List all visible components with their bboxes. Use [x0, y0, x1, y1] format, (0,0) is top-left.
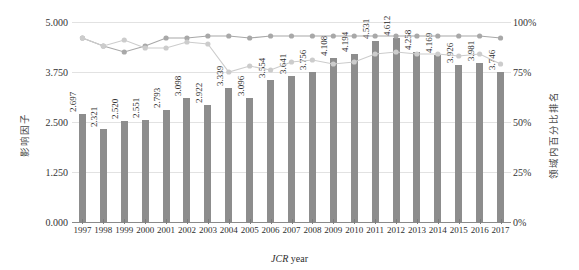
x-axis-tick-mark: [124, 219, 125, 224]
line-marker: [414, 33, 419, 38]
x-axis-tick-mark: [333, 219, 334, 224]
line-marker: [122, 37, 127, 42]
y-axis-left-tick-label: 3.750: [46, 67, 69, 78]
line-marker: [143, 45, 148, 50]
line-marker: [352, 33, 357, 38]
line-series-overlay: [72, 22, 511, 222]
x-axis-tick-label: 2007: [281, 224, 302, 240]
x-axis-tick-label: 1999: [114, 224, 135, 240]
y-axis-left-tick-label: 0.000: [46, 217, 69, 228]
x-axis-title-prefix: JCR: [271, 253, 288, 264]
line-marker: [289, 33, 294, 38]
x-axis-tick-label: 2011: [365, 224, 386, 240]
line-marker: [414, 51, 419, 56]
x-axis-tick-label: 2006: [260, 224, 281, 240]
x-axis-tick-label: 2003: [197, 224, 218, 240]
line-marker: [331, 61, 336, 66]
x-axis-tick-mark: [82, 219, 83, 224]
x-axis-tick-label: 2014: [427, 224, 448, 240]
line-marker: [101, 43, 106, 48]
x-axis-title-suffix: year: [291, 253, 308, 264]
y-axis-left-ticks: 0.0001.2502.5003.7505.000: [24, 0, 68, 270]
y-axis-left-tick-label: 1.250: [46, 167, 69, 178]
x-axis-tick-mark: [417, 219, 418, 224]
line-marker: [393, 33, 398, 38]
x-axis-tick-mark: [459, 219, 460, 224]
y-axis-right-ticks: 0%25%50%75%100%: [513, 0, 553, 270]
x-axis-tick-label: 1997: [72, 224, 93, 240]
x-axis-tick-label: 2004: [218, 224, 239, 240]
line-marker: [498, 61, 503, 66]
x-axis-tick-mark: [438, 219, 439, 224]
x-axis-tick-mark: [396, 219, 397, 224]
x-axis-tick-mark: [229, 219, 230, 224]
line-marker: [310, 57, 315, 62]
y-axis-right-tick-label: 50%: [513, 117, 531, 128]
line-marker: [268, 33, 273, 38]
line-marker: [80, 35, 85, 40]
y-axis-left-tick-label: 2.500: [46, 117, 69, 128]
x-axis-tick-label: 2009: [323, 224, 344, 240]
line-marker: [477, 51, 482, 56]
line-marker: [163, 45, 168, 50]
line-marker: [393, 49, 398, 54]
line-marker: [205, 41, 210, 46]
x-axis-tick-mark: [354, 219, 355, 224]
plot-area: 2.6972.3212.5202.5512.7933.0982.9223.339…: [72, 22, 511, 222]
line-marker: [184, 39, 189, 44]
x-axis-tick-label: 2000: [135, 224, 156, 240]
line-marker: [498, 35, 503, 40]
line-marker: [163, 35, 168, 40]
line-marker: [435, 33, 440, 38]
line-marker: [373, 51, 378, 56]
x-axis-tick-mark: [166, 219, 167, 224]
x-axis-ticks: 1997199819992000200120022003200420052006…: [72, 224, 511, 240]
x-axis-tick-label: 2010: [344, 224, 365, 240]
x-axis-tick-mark: [480, 219, 481, 224]
line-marker: [435, 51, 440, 56]
x-axis-tick-mark: [271, 219, 272, 224]
line-marker: [226, 33, 231, 38]
line-marker: [456, 33, 461, 38]
x-axis-tick-mark: [187, 219, 188, 224]
x-axis-tick-label: 2017: [490, 224, 511, 240]
x-axis-tick-mark: [145, 219, 146, 224]
x-axis-tick-mark: [375, 219, 376, 224]
line-marker: [331, 33, 336, 38]
line-marker: [456, 53, 461, 58]
x-axis-title: JCR year: [0, 253, 579, 264]
y-axis-right-tick-label: 75%: [513, 67, 531, 78]
x-axis-tick-label: 2012: [386, 224, 407, 240]
x-axis-tick-label: 2016: [469, 224, 490, 240]
line-marker: [247, 35, 252, 40]
x-axis-tick-mark: [250, 219, 251, 224]
x-axis-tick-mark: [103, 219, 104, 224]
x-axis-tick-label: 1998: [93, 224, 114, 240]
x-axis-tick-mark: [292, 219, 293, 224]
line-marker: [373, 33, 378, 38]
y-axis-right-tick-label: 0%: [513, 217, 526, 228]
line-marker: [226, 69, 231, 74]
x-axis-tick-label: 2001: [156, 224, 177, 240]
line-marker: [268, 67, 273, 72]
y-axis-left-tick-label: 5.000: [46, 17, 69, 28]
y-axis-right-tick-label: 25%: [513, 167, 531, 178]
line-marker: [310, 33, 315, 38]
line-marker: [477, 33, 482, 38]
x-axis-tick-label: 2005: [239, 224, 260, 240]
line-marker: [205, 33, 210, 38]
line-marker: [122, 49, 127, 54]
x-axis-tick-label: 2002: [177, 224, 198, 240]
x-axis-tick-label: 2015: [448, 224, 469, 240]
line-marker: [247, 63, 252, 68]
line-marker: [289, 59, 294, 64]
x-axis-tick-label: 2008: [302, 224, 323, 240]
y-axis-right-tick-label: 100%: [513, 17, 536, 28]
line-marker: [352, 59, 357, 64]
x-axis-tick-mark: [208, 219, 209, 224]
x-axis-tick-mark: [501, 219, 502, 224]
x-axis-tick-label: 2013: [407, 224, 428, 240]
x-axis-tick-mark: [312, 219, 313, 224]
chart-container: 影响因子 领域内百分比排名 0.0001.2502.5003.7505.000 …: [0, 0, 579, 270]
